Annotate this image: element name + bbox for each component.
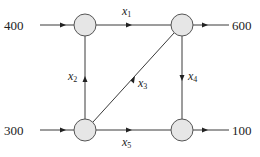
- arrowhead: [126, 128, 132, 133]
- outflow-label-bottom-right: 100: [232, 123, 252, 138]
- arrowhead: [180, 75, 185, 81]
- edge-label-x3: x3: [137, 76, 147, 91]
- flow-network-diagram: 400 600 300 100 x1 x2 x3 x4 x5: [0, 0, 260, 157]
- arrowhead: [202, 128, 208, 133]
- arrowhead: [202, 23, 208, 28]
- node-bottom-left: [74, 119, 96, 141]
- arrowhead: [60, 23, 66, 28]
- arrowhead: [83, 76, 88, 82]
- inflow-label-top-left: 400: [4, 18, 24, 33]
- edge-label-x1: x1: [121, 4, 131, 19]
- edge-label-x5: x5: [121, 135, 131, 150]
- arrowhead: [126, 23, 132, 28]
- inflow-label-bottom-left: 300: [4, 123, 24, 138]
- arrowhead: [60, 128, 66, 133]
- edge-label-x2: x2: [67, 69, 77, 84]
- node-bottom-right: [171, 119, 193, 141]
- node-top-right: [171, 14, 193, 36]
- outflow-label-top-right: 600: [232, 18, 252, 33]
- edge-label-x4: x4: [187, 69, 197, 84]
- node-top-left: [74, 14, 96, 36]
